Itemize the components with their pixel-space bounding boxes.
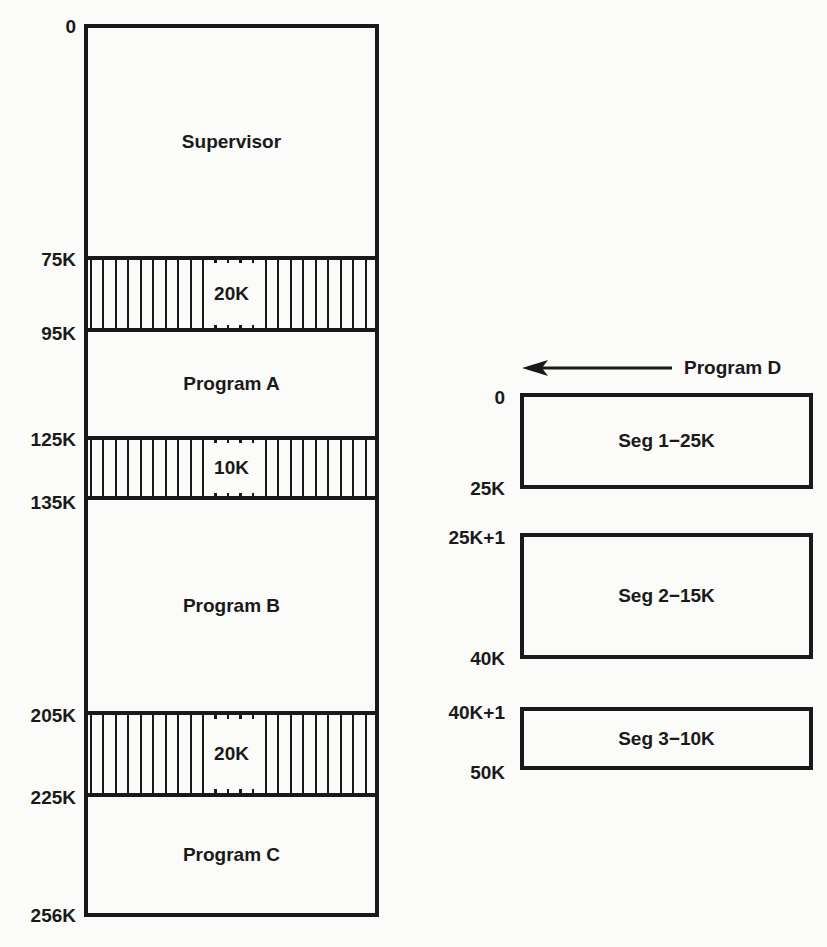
region-label: Program B — [183, 595, 280, 617]
free-label: 20K — [206, 263, 257, 325]
free-label: 10K — [206, 443, 257, 493]
region-program-b: Program B — [88, 500, 375, 711]
region-free-20k-1: 20K — [88, 256, 375, 332]
region-free-10k: 10K — [88, 436, 375, 500]
address-label: 225K — [31, 788, 76, 807]
region-label: Program A — [183, 373, 279, 395]
address-label: 95K — [41, 324, 76, 343]
region-program-c: Program C — [88, 797, 375, 913]
segment-label: Seg 1−25K — [618, 430, 715, 452]
address-label: 256K — [31, 906, 76, 925]
address-label: 135K — [31, 493, 76, 512]
segment-2: Seg 2−15K — [520, 533, 813, 659]
region-label: Supervisor — [182, 131, 281, 153]
segment-address-label: 25K+1 — [448, 528, 505, 547]
segment-1: Seg 1−25K — [520, 393, 813, 489]
address-label: 125K — [31, 430, 76, 449]
left-arrow-icon — [522, 359, 674, 377]
segment-address-label: 25K — [470, 479, 505, 498]
segment-label: Seg 2−15K — [618, 585, 715, 607]
segment-3: Seg 3−10K — [520, 707, 813, 770]
address-label: 205K — [31, 706, 76, 725]
region-label: Program C — [183, 844, 280, 866]
address-label: 0 — [65, 17, 76, 36]
region-free-20k-2: 20K — [88, 711, 375, 797]
region-program-a: Program A — [88, 332, 375, 436]
free-label: 20K — [206, 719, 257, 789]
segment-label: Seg 3−10K — [618, 728, 715, 750]
region-supervisor: Supervisor — [88, 28, 375, 256]
segment-address-label: 40K+1 — [448, 703, 505, 722]
segment-address-label: 0 — [494, 388, 505, 407]
segment-address-label: 40K — [470, 649, 505, 668]
address-label: 75K — [41, 250, 76, 269]
segment-address-label: 50K — [470, 763, 505, 782]
program-d-label: Program D — [684, 358, 781, 377]
